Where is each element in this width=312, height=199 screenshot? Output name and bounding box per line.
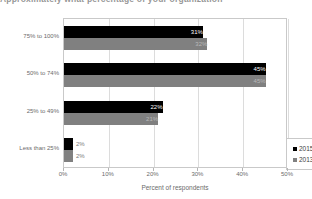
category-label: 50% to 74% bbox=[0, 70, 59, 76]
category-label: 25% to 49% bbox=[0, 108, 59, 114]
bar-chart-figure: 31%32%45%45%22%21%2%2% 20152013 75% to 1… bbox=[0, 0, 312, 199]
legend-item[interactable]: 2013 bbox=[287, 154, 312, 165]
x-tick-label: 10% bbox=[102, 171, 114, 177]
bar-value-label: 31% bbox=[64, 26, 203, 38]
category-label: Less than 25% bbox=[0, 145, 59, 151]
x-tick-label: 40% bbox=[236, 171, 248, 177]
x-tick-label: 0% bbox=[59, 171, 68, 177]
legend-item[interactable]: 2015 bbox=[287, 143, 312, 154]
bar-value-label: 32% bbox=[64, 38, 207, 50]
gridline bbox=[243, 19, 244, 167]
category-label: 75% to 100% bbox=[0, 33, 59, 39]
bar-2013-3[interactable] bbox=[64, 150, 73, 162]
legend-label: 2013 bbox=[299, 155, 312, 164]
bar-value-label: 21% bbox=[64, 113, 158, 125]
x-tick-label: 30% bbox=[191, 171, 203, 177]
legend-label: 2015 bbox=[299, 144, 312, 153]
plot-area: 31%32%45%45%22%21%2%2% 20152013 bbox=[63, 18, 287, 168]
bar-2015-3[interactable] bbox=[64, 138, 73, 150]
x-tick-label: 50% bbox=[281, 171, 293, 177]
legend-swatch-icon bbox=[293, 158, 297, 162]
bar-value-label: 2% bbox=[76, 150, 85, 162]
x-axis-title: Percent of respondents bbox=[63, 184, 287, 191]
bar-value-label: 22% bbox=[64, 101, 163, 113]
bar-value-label: 2% bbox=[76, 138, 85, 150]
chart-legend[interactable]: 20152013 bbox=[286, 138, 312, 170]
legend-swatch-icon bbox=[293, 147, 297, 151]
x-tick-label: 20% bbox=[147, 171, 159, 177]
bar-value-label: 45% bbox=[64, 75, 266, 87]
bar-value-label: 45% bbox=[64, 63, 266, 75]
